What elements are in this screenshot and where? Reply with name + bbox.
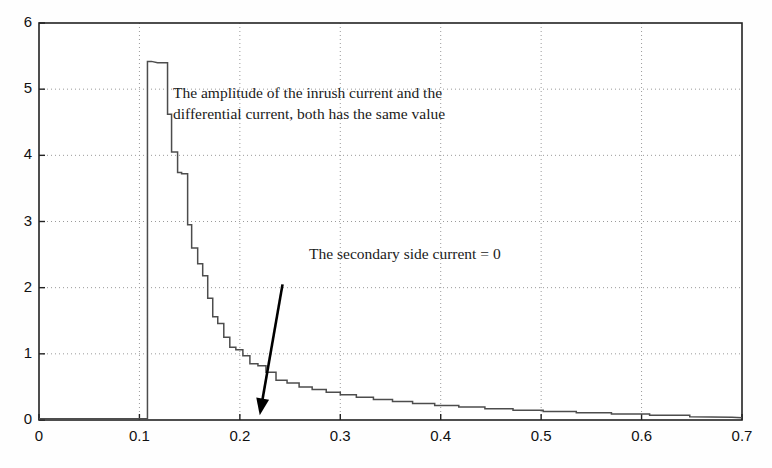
y-tick-label-5: 5 [8,79,32,96]
x-tick-label-0.4: 0.4 [419,427,463,444]
y-tick-label-6: 6 [8,13,32,30]
annotation-amplitude-note: The amplitude of the inrush current and … [173,82,445,125]
chart-plot [0,0,772,468]
figure-canvas: 0123456 00.10.20.30.40.50.60.7 The ampli… [0,0,772,468]
y-tick-label-4: 4 [8,145,32,162]
x-tick-label-0.1: 0.1 [117,427,161,444]
x-tick-label-0.7: 0.7 [720,427,764,444]
x-tick-label-0.6: 0.6 [620,427,664,444]
annotation-secondary-text: The secondary side current = 0 [309,243,501,264]
y-tick-label-2: 2 [8,278,32,295]
x-tick-label-0: 0 [17,427,61,444]
x-tick-label-0.5: 0.5 [519,427,563,444]
y-tick-label-3: 3 [8,212,32,229]
x-tick-label-0.3: 0.3 [318,427,362,444]
annotation-amplitude-line2: differential current, both has the same … [173,103,445,124]
annotation-amplitude-line1: The amplitude of the inrush current and … [173,82,445,103]
y-tick-label-0: 0 [8,410,32,427]
x-tick-label-0.2: 0.2 [218,427,262,444]
annotation-secondary-current-note: The secondary side current = 0 [309,243,501,264]
y-tick-label-1: 1 [8,344,32,361]
